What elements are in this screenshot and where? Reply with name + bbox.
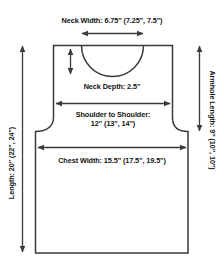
neckline-arc xyxy=(82,46,144,77)
garment-measurement-diagram: Neck Width: 6.75" (7.25", 7.5") Neck Dep… xyxy=(0,0,224,270)
shoulder-to-shoulder-label-line2: 12" (13", 14") xyxy=(76,119,151,128)
neck-width-label: Neck Width: 6.75" (7.25", 7.5") xyxy=(62,16,163,25)
shoulder-to-shoulder-label-line1: Shoulder to Shoulder: xyxy=(76,110,151,119)
chest-width-label: Chest Width: 15.5" (17.5", 19.5") xyxy=(58,156,166,165)
shoulder-to-shoulder-label: Shoulder to Shoulder: 12" (13", 14") xyxy=(76,110,151,128)
armhole-length-label: Armhole Length: 9" (10", 10") xyxy=(208,70,217,169)
length-label: Length: 20" (22", 24") xyxy=(7,127,16,199)
diagram-canvas xyxy=(0,0,224,270)
neck-depth-label: Neck Depth: 2.5" xyxy=(84,82,141,91)
